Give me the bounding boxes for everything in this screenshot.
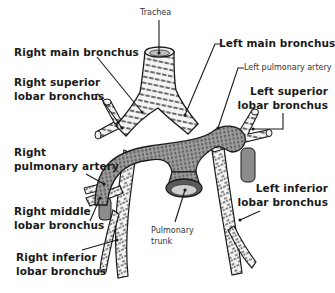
leader-left-main-bronchus [185, 44, 220, 115]
label-right-inferior-lobar-line1: Right inferior [16, 250, 97, 264]
trachea [116, 47, 198, 136]
label-left-superior-lobar-line1: Left superior [250, 84, 328, 98]
label-left-superior-lobar-line2: lobar bronchus [238, 98, 328, 112]
label-right-pulmonary-artery-line2: pulmonary artery [14, 159, 119, 173]
label-left-main-bronchus: Left main bronchus [219, 36, 335, 50]
label-right-inferior-lobar-line2: lobar bronchus [16, 264, 106, 278]
label-right-superior-lobar-line2: lobar bronchus [14, 89, 104, 103]
label-right-middle-lobar-line2: lobar bronchus [14, 218, 104, 232]
label-right-superior-lobar-line1: Right superior [14, 75, 100, 89]
leader-left-inferior-lobar [240, 211, 260, 220]
label-pulmonary-trunk-line2: trunk [151, 236, 172, 247]
label-pulmonary-trunk-line1: Pulmonary [151, 225, 194, 236]
left-inferior-lobar-bronchus [212, 148, 256, 275]
label-left-inferior-lobar-line1: Left inferior [256, 181, 328, 195]
label-right-middle-lobar-line1: Right middle [14, 204, 91, 218]
right-superior-lobar-bronchus [95, 99, 121, 139]
label-trachea: Trachea [140, 7, 171, 18]
label-right-pulmonary-artery-line1: Right [14, 145, 46, 159]
label-left-inferior-lobar-line2: lobar bronchus [238, 195, 328, 209]
label-left-pulmonary-artery: Left pulmonary artery [244, 62, 331, 73]
label-right-main-bronchus: Right main bronchus [14, 45, 139, 59]
